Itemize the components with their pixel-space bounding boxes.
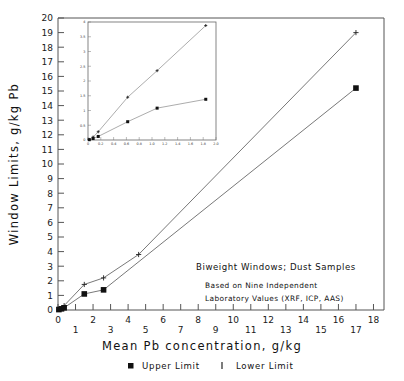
x-tick-label: 8 [195,315,201,325]
y-tick-label: 4 [47,247,53,257]
annotation-line-1: Biweight Windows; Dust Samples [196,262,356,272]
inset-x-tick-label: 1.4 [175,142,180,146]
y-tick-label: 8 [47,189,53,199]
inset-x-tick-label: 1.8 [200,142,205,146]
x-tick-label: 13 [280,325,291,335]
inset-x-tick-label: 0 [87,142,89,146]
inset-x-tick-label: 1.0 [149,142,154,146]
inset-y-tick-label: 2.5 [80,65,85,69]
x-axis: 0123456789101112131415161718 [55,304,379,335]
y-tick-label: 3 [47,262,53,272]
x-tick-label: 2 [90,315,96,325]
inset-data-point-upper-limit [97,135,100,138]
y-tick-label: 0 [47,305,53,315]
x-tick-label: 17 [350,325,361,335]
inset-data-point-upper-limit [204,98,207,101]
y-tick-label: 20 [42,13,54,23]
inset-y-tick-label: 1 [83,109,85,113]
y-tick-label: 7 [47,203,53,213]
y-tick-label: 15 [42,86,53,96]
x-tick-label: 15 [315,325,326,335]
x-tick-label: 7 [178,325,184,335]
inset-y-tick-label: 1.5 [80,94,85,98]
annotation-line-3: Laboratory Values (XRF, ICP, AAS) [205,294,344,303]
y-tick-label: 1 [47,291,53,301]
legend-label-lower: Lower Limit [236,361,293,371]
x-tick-label: 11 [245,325,256,335]
x-axis-title: Mean Pb concentration, g/kg [102,339,302,353]
data-point-upper-limit [101,287,107,293]
y-tick-label: 10 [42,159,54,169]
inset-data-point-upper-limit [156,107,159,110]
y-tick-label: 17 [42,57,53,67]
inset-data-point-upper-limit [88,138,91,141]
chart-canvas: 01234567891011121314151617181920 0123456… [0,0,404,381]
inset-x-tick-label: 0.2 [98,142,103,146]
inset-frame [88,22,216,140]
data-point-upper-limit [61,305,67,311]
x-tick-label: 18 [368,315,380,325]
inset-data-point-upper-limit [92,137,95,140]
inset-x-tick-label: 2.0 [213,142,218,146]
inset-data-point-upper-limit [126,120,129,123]
legend-square-marker-icon [128,363,134,369]
data-point-upper-limit [353,85,359,91]
x-tick-label: 9 [213,325,219,335]
y-axis-title: Window Limits, g/kg Pb [7,83,21,245]
inset-x-tick-label: 0.4 [111,142,116,146]
x-tick-label: 3 [108,325,114,335]
y-axis: 01234567891011121314151617181920 [42,13,64,315]
y-tick-label: 14 [42,101,54,111]
y-tick-label: 13 [42,116,53,126]
y-tick-label: 16 [42,72,54,82]
x-tick-label: 0 [55,315,61,325]
y-tick-label: 2 [47,276,53,286]
inset-x-tick-label: 0.6 [124,142,129,146]
y-tick-label: 19 [42,28,54,38]
x-tick-label: 16 [333,315,345,325]
legend: Upper Limit Lower Limit [128,361,293,371]
inset-x-tick-label: 1.2 [162,142,167,146]
inset-y-tick-label: 2 [83,79,85,83]
y-tick-label: 12 [42,130,53,140]
x-tick-label: 5 [143,325,149,335]
x-tick-label: 12 [263,315,274,325]
annotation-line-2: Based on Nine Independent [205,281,318,290]
x-tick-label: 6 [160,315,166,325]
y-tick-label: 6 [47,218,53,228]
x-tick-label: 14 [298,315,310,325]
inset-x-tick-label: 0.8 [136,142,141,146]
inset-y-tick-label: 3.5 [80,35,85,39]
chart-figure: 01234567891011121314151617181920 0123456… [0,0,404,381]
inset-y-tick-label: 0.5 [80,124,85,128]
inset-y-tick-label: 3 [83,50,85,54]
y-tick-label: 11 [42,145,53,155]
x-tick-label: 4 [125,315,131,325]
legend-label-upper: Upper Limit [142,361,200,371]
inset-y-tick-label: 0 [83,138,85,142]
x-tick-label: 1 [73,325,79,335]
y-tick-label: 5 [47,232,53,242]
y-tick-label: 18 [42,43,54,53]
data-point-upper-limit [81,291,87,297]
inset-plot: 00.511.522.533.5400.20.40.60.81.01.21.41… [80,20,219,146]
inset-y-tick-label: 4 [83,20,85,24]
inset-x-tick-label: 1.6 [188,142,193,146]
y-tick-label: 9 [47,174,53,184]
x-tick-label: 10 [228,315,240,325]
